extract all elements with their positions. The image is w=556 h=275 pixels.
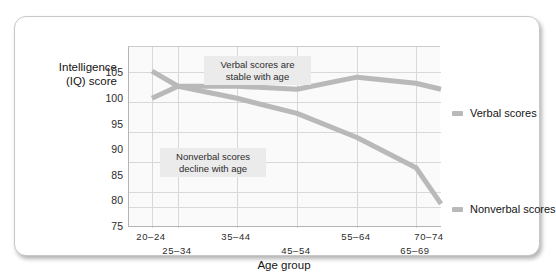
figure-frame: Intelligence (IQ) score 105 100 95 90 85…: [14, 16, 540, 256]
x-tick-55-64: 55–64: [341, 231, 370, 242]
annotation-nonverbal-line2: decline with age: [165, 163, 261, 175]
x-tick-65-69: 65–69: [400, 245, 429, 256]
y-tick-105: 105: [97, 66, 123, 78]
x-tick-45-54: 45–54: [281, 245, 310, 256]
y-tick-80: 80: [97, 194, 123, 206]
legend-item-nonverbal-scores: Nonverbal scores: [452, 203, 556, 215]
annotation-verbal-line1: Verbal scores are: [209, 59, 306, 71]
x-tick-20-24: 20–24: [136, 231, 165, 242]
chart-figure: Intelligence (IQ) score 105 100 95 90 85…: [0, 0, 556, 275]
y-tick-95: 95: [97, 118, 123, 130]
legend-swatch-nonverbal-icon: [452, 207, 463, 212]
legend-swatch-verbal-icon: [452, 111, 463, 116]
y-tick-90: 90: [97, 143, 123, 155]
x-tick-70-74: 70–74: [414, 231, 443, 242]
legend-label-verbal: Verbal scores: [470, 107, 537, 119]
plot-area: Verbal scores are stable with age Nonver…: [128, 46, 440, 227]
y-tick-85: 85: [97, 169, 123, 181]
y-tick-75: 75: [97, 220, 123, 232]
annotation-verbal: Verbal scores are stable with age: [204, 56, 311, 85]
x-axis-title: Age group: [128, 259, 440, 271]
y-tick-100: 100: [97, 92, 123, 104]
annotation-nonverbal: Nonverbal scores decline with age: [160, 148, 266, 177]
x-tick-25-34: 25–34: [162, 245, 191, 256]
annotation-nonverbal-line1: Nonverbal scores: [165, 151, 261, 163]
legend-label-nonverbal: Nonverbal scores: [470, 203, 556, 215]
legend-item-verbal-scores: Verbal scores: [452, 107, 537, 119]
x-tick-35-44: 35–44: [221, 231, 250, 242]
annotation-verbal-line2: stable with age: [209, 71, 306, 83]
